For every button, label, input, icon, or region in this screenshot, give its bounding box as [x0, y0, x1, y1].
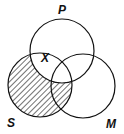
label-p: P — [58, 3, 67, 17]
venn-diagram: P S M X — [0, 0, 124, 134]
x-mark: X — [40, 51, 50, 65]
label-m: M — [106, 117, 117, 131]
label-s: S — [7, 116, 15, 130]
shaded-region-s-minus-p — [0, 0, 124, 134]
